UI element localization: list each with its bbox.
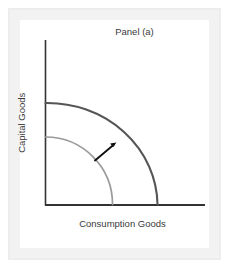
panel-title: Panel (a)	[0, 27, 229, 37]
outer-ppf-curve	[46, 103, 158, 205]
x-axis-label: Consumption Goods	[0, 219, 229, 229]
inner-ppf-curve	[46, 137, 113, 205]
screenshot-root: Panel (a) Consumption Goods Capital Good…	[0, 0, 229, 268]
y-axis-label: Capital Goods	[17, 78, 27, 168]
growth-arrow-icon	[95, 143, 117, 161]
